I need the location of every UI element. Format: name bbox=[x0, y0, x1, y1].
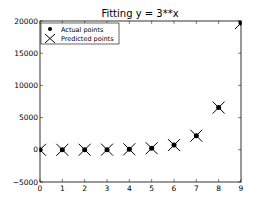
x-tick-label: 2 bbox=[82, 184, 87, 193]
x-tick-label: 5 bbox=[149, 184, 154, 193]
y-tick-label: 15000 bbox=[14, 49, 38, 58]
axes-frame bbox=[40, 21, 241, 182]
legend: Actual points Predicted points bbox=[41, 23, 119, 44]
x-tick-label: 6 bbox=[172, 184, 177, 193]
y-tick-label: 10000 bbox=[14, 81, 38, 90]
legend-dot-icon bbox=[48, 27, 52, 31]
y-tick-label: −5000 bbox=[13, 178, 39, 187]
y-tick-label: 5000 bbox=[19, 113, 38, 122]
x-tick-label: 7 bbox=[194, 184, 199, 193]
x-tick-label: 4 bbox=[127, 184, 132, 193]
chart-title: Fitting y = 3**x bbox=[101, 8, 178, 19]
x-tick-label: 3 bbox=[105, 184, 110, 193]
legend-label-predicted: Predicted points bbox=[61, 35, 114, 43]
x-tick-label: 1 bbox=[60, 184, 65, 193]
x-tick-label: 9 bbox=[239, 184, 244, 193]
x-tick-label: 8 bbox=[216, 184, 221, 193]
x-tick-label: 0 bbox=[38, 184, 43, 193]
legend-label-actual: Actual points bbox=[61, 26, 104, 34]
y-tick-label: 20000 bbox=[14, 17, 38, 26]
scatter-chart: Fitting y = 3**x 0123456789−500005000100… bbox=[0, 0, 257, 200]
y-tick-label: 0 bbox=[33, 145, 38, 154]
